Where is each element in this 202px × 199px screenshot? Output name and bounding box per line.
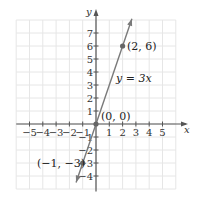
y-tick-label: 7 [87,28,93,39]
y-tick-label: −4 [78,171,93,182]
y-tick-label: 5 [87,54,93,65]
y-tick-label: 4 [87,67,93,78]
x-tick-label: 4 [146,127,152,138]
point-label-2-6: (2, 6) [127,40,157,53]
coordinate-plane: −5−4−3−2−112345−4−3−2−11234567 x y y = 3… [0,0,202,199]
y-tick-label: 6 [87,41,93,52]
x-tick-label: 5 [159,127,165,138]
y-tick-label: 1 [87,106,93,117]
x-axis-label: x [184,124,190,135]
x-tick-label: 3 [133,127,139,138]
data-point [120,43,125,48]
data-point [93,121,98,126]
point-label-neg1-neg3: (−1, −3) [37,157,85,170]
equation-label: y = 3x [115,72,152,85]
x-tick-label: 2 [119,127,125,138]
y-axis-arrow-icon [94,9,99,16]
point-label-origin: (0, 0) [101,110,131,123]
y-axis-label: y [85,6,92,17]
x-tick-label: 1 [106,127,112,138]
y-tick-label: 2 [87,93,93,104]
y-tick-label: 3 [87,80,93,91]
